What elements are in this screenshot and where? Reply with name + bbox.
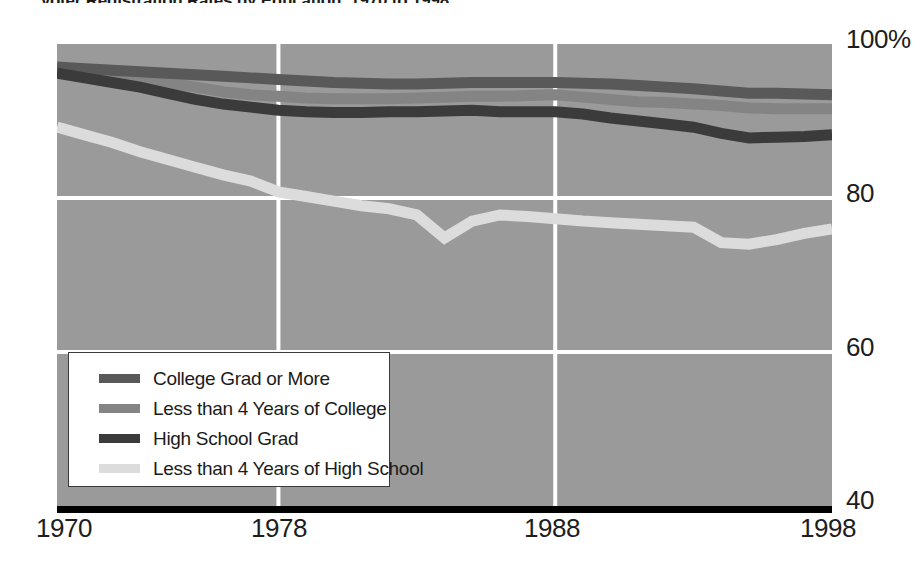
legend-label-less-than-4-years-college: Less than 4 Years of College	[153, 399, 387, 418]
legend-item-less-than-4-years-college: Less than 4 Years of College	[99, 393, 389, 423]
x-axis-baseline	[57, 506, 832, 513]
legend-item-less-than-4-years-high-school: Less than 4 Years of High School	[99, 453, 389, 483]
legend-swatch-less-than-4-years-high-school	[99, 464, 140, 473]
y-tick-label-80: 80	[846, 178, 874, 209]
legend-swatch-high-school-grad	[99, 434, 140, 443]
x-tick-label-1998: 1998	[800, 513, 856, 544]
legend-label-college-grad-or-more: College Grad or More	[153, 369, 330, 388]
y-tick-label-100: 100%	[846, 24, 911, 55]
legend-label-high-school-grad: High School Grad	[153, 429, 298, 448]
series-lines	[57, 67, 832, 244]
series-line-less_than_4_years_high_school	[57, 127, 832, 244]
legend-swatch-less-than-4-years-college	[99, 404, 140, 413]
legend-label-less-than-4-years-high-school: Less than 4 Years of High School	[153, 459, 423, 478]
chart-legend: College Grad or More Less than 4 Years o…	[68, 352, 390, 487]
y-tick-label-40: 40	[846, 485, 874, 516]
legend-item-college-grad-or-more: College Grad or More	[99, 363, 389, 393]
legend-swatch-college-grad-or-more	[99, 374, 140, 383]
legend-item-high-school-grad: High School Grad	[99, 423, 389, 453]
chart-title: Voter Registration Rates by Education, 1…	[40, 0, 449, 3]
y-tick-label-60: 60	[846, 332, 874, 363]
x-tick-label-1978: 1978	[251, 513, 307, 544]
x-tick-label-1970: 1970	[36, 513, 92, 544]
x-tick-label-1988: 1988	[524, 513, 580, 544]
chart-page: Voter Registration Rates by Education, 1…	[0, 0, 924, 578]
